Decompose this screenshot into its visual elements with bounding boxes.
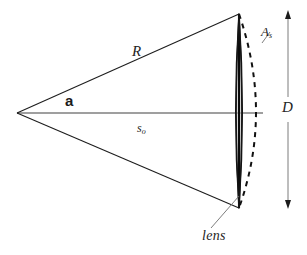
label-R: R: [132, 44, 141, 59]
label-so-base: s: [137, 121, 142, 135]
label-lens: lens: [202, 229, 226, 243]
lower-ray-line: [17, 113, 239, 208]
lens-diagram-figure: R a so As D lens: [0, 0, 307, 255]
upper-ray-line: [17, 14, 239, 113]
label-as-base: A: [261, 24, 269, 39]
diameter-arrowhead-bottom: [285, 200, 291, 209]
label-diameter-D: D: [282, 100, 293, 115]
lens-leader-line: [211, 196, 239, 228]
label-angle-a: a: [65, 93, 73, 108]
label-as-sub: s: [269, 31, 272, 40]
label-object-distance: so: [137, 122, 146, 134]
label-cap-area: As: [261, 25, 272, 38]
diameter-arrowhead-top: [285, 10, 291, 19]
label-so-sub: o: [142, 127, 146, 136]
